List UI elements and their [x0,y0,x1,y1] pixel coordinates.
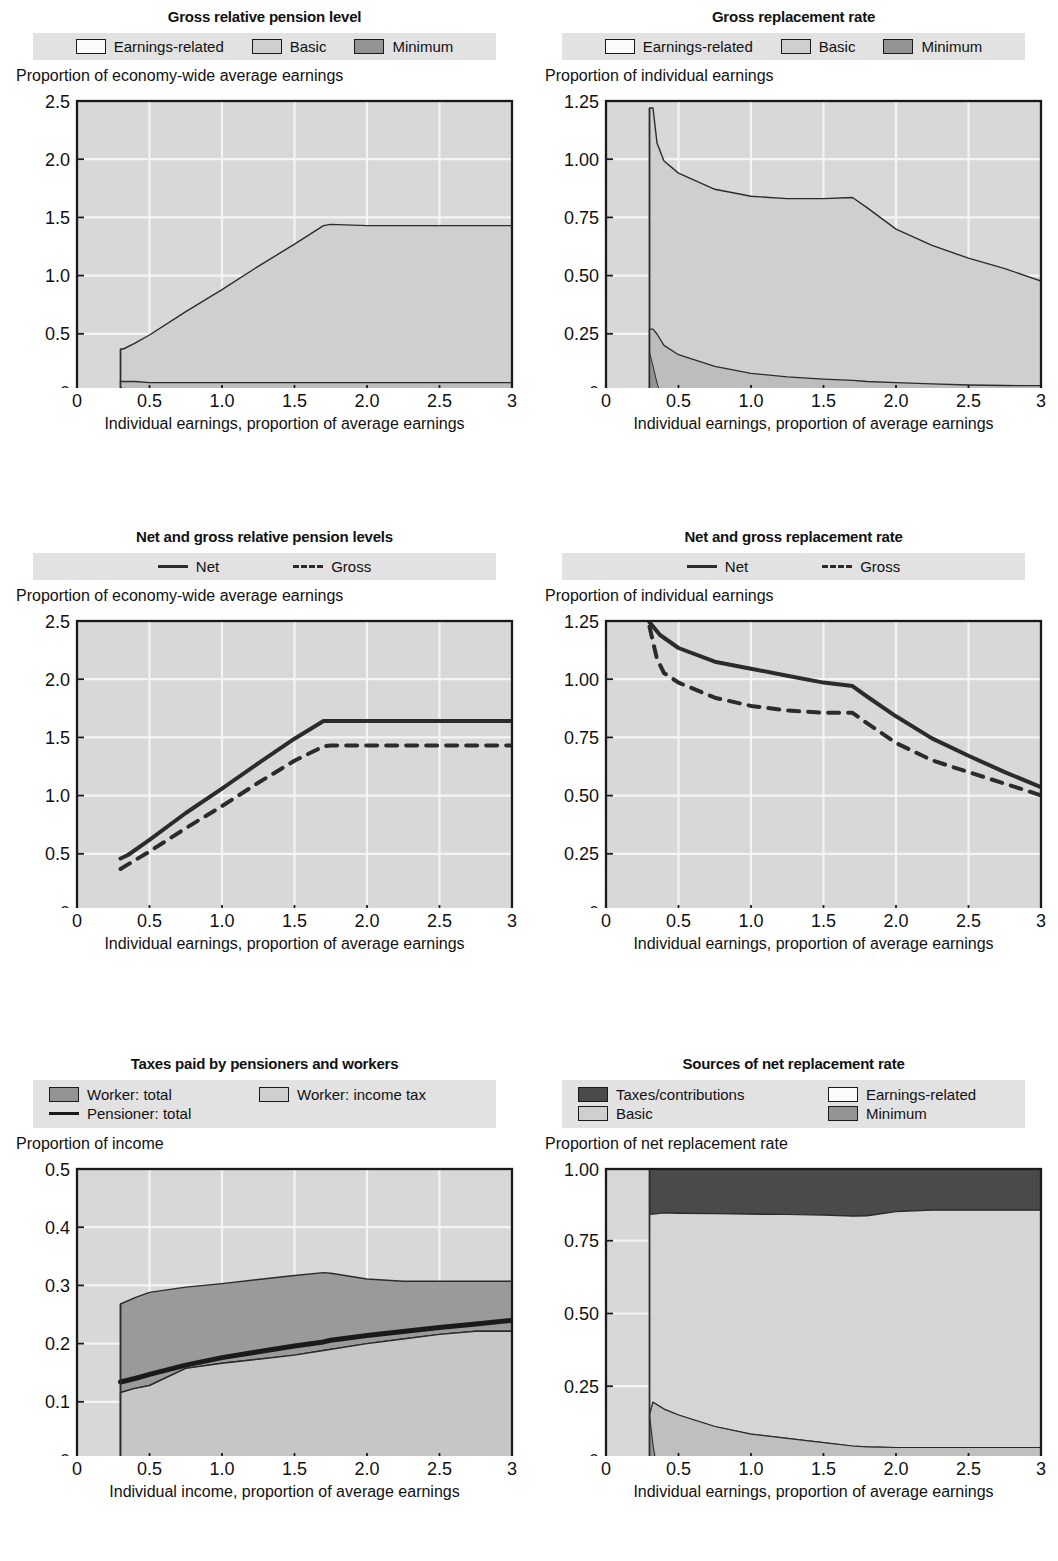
legend-label: Worker: total [87,1086,172,1103]
legend-item[interactable]: Taxes/contributions [578,1086,828,1103]
x-axis-ticks: 0 0.5 1.0 1.5 2.0 2.5 3 [72,1459,517,1479]
legend-item[interactable]: Minimum [354,38,453,55]
y-tick: 0.2 [45,1334,70,1354]
legend-swatch-basic-icon [781,39,811,54]
x-tick: 2.5 [956,911,981,931]
legend-swatch-worker-income-tax-icon [259,1087,289,1102]
legend-label: Pensioner: total [87,1105,191,1122]
page-title: Gross relative pension level [0,8,529,26]
x-axis-title: Individual earnings, proportion of avera… [529,935,1058,953]
legend-label: Minimum [921,38,982,55]
x-tick: 1.5 [811,391,836,411]
legend-item[interactable]: Basic [578,1105,828,1122]
y-tick: 1.0 [45,786,70,806]
x-tick: 0 [72,1459,82,1479]
y-tick: 1.5 [45,208,70,228]
x-axis-title: Individual earnings, proportion of avera… [529,415,1058,433]
x-tick: 0 [601,391,611,411]
y-axis-ticks: 1.25 1.00 0.75 0.50 0.25 0 [564,612,599,908]
y-tick: 1.5 [45,728,70,748]
legend-swatch-net-line-icon [158,565,188,568]
legend-label: Net [196,558,219,575]
chart-legend: Worker: total Worker: income tax Pension… [33,1080,496,1128]
legend-label: Basic [819,38,856,55]
legend-item[interactable]: Minimum [828,1105,927,1122]
y-tick: 0 [589,383,599,388]
legend-item[interactable]: Earnings-related [828,1086,976,1103]
x-tick: 0 [72,391,82,411]
x-tick: 2.0 [354,391,379,411]
x-tick: 0.5 [666,1459,691,1479]
legend-label: Minimum [866,1105,927,1122]
x-tick: 0.5 [666,391,691,411]
x-tick: 0 [601,1459,611,1479]
plot-area: 2.5 2.0 1.5 1.0 0.5 0 0 0.5 1.0 1.5 2.0 … [0,88,529,414]
legend-item[interactable]: Basic [781,38,856,55]
y-tick: 2.5 [45,612,70,632]
x-tick: 1.0 [209,391,234,411]
y-tick: 2.0 [45,670,70,690]
x-tick: 1.5 [282,391,307,411]
legend-item[interactable]: Earnings-related [76,38,224,55]
plot-area: 1.00 0.75 0.50 0.25 0 0 0.5 1.0 1.5 2.0 … [529,1156,1058,1482]
y-tick: 0.5 [45,844,70,864]
y-axis-ticks: 1.00 0.75 0.50 0.25 0 [564,1160,599,1456]
x-tick: 0 [72,911,82,931]
x-tick: 1.0 [209,1459,234,1479]
legend-item[interactable]: Worker: income tax [259,1086,426,1103]
x-tick: 2.0 [354,911,379,931]
legend-swatch-minimum-icon [883,39,913,54]
legend-item[interactable]: Gross [822,558,900,575]
y-tick: 1.00 [564,1160,599,1180]
x-axis-ticks: 0 0.5 1.0 1.5 2.0 2.5 3 [72,911,517,931]
legend-label: Taxes/contributions [616,1086,744,1103]
panel-taxes-paid-by-pensioners-and-workers: Taxes paid by pensioners and workers Wor… [0,1055,529,1501]
legend-label: Earnings-related [114,38,224,55]
legend-item[interactable]: Basic [252,38,327,55]
legend-label: Earnings-related [643,38,753,55]
x-tick: 1.0 [738,1459,763,1479]
legend-item[interactable]: Pensioner: total [49,1105,191,1122]
page-title: Sources of net replacement rate [529,1055,1058,1073]
y-axis-title: Proportion of individual earnings [545,66,1058,86]
x-tick: 1.5 [282,911,307,931]
x-tick: 2.5 [427,911,452,931]
legend-item[interactable]: Net [158,558,219,575]
x-axis-ticks: 0 0.5 1.0 1.5 2.0 2.5 3 [601,391,1046,411]
legend-item[interactable]: Gross [293,558,371,575]
legend-label: Basic [290,38,327,55]
legend-swatch-earnings-related-icon [828,1087,858,1102]
legend-swatch-basic-icon [252,39,282,54]
legend-swatch-gross-dash-icon [822,565,852,568]
y-tick: 0.50 [564,786,599,806]
page-title: Net and gross relative pension levels [0,528,529,546]
y-tick: 0.4 [45,1218,70,1238]
legend-swatch-gross-dash-icon [293,565,323,568]
plot-area: 1.25 1.00 0.75 0.50 0.25 0 0 0.5 1.0 1.5… [529,608,1058,934]
x-tick: 0 [601,911,611,931]
y-tick: 0.25 [564,1377,599,1397]
legend-item[interactable]: Minimum [883,38,982,55]
x-tick: 2.0 [883,1459,908,1479]
page-title: Gross replacement rate [529,8,1058,26]
area-earnings-related [650,1210,1042,1447]
legend-item[interactable]: Earnings-related [605,38,753,55]
x-axis-ticks: 0 0.5 1.0 1.5 2.0 2.5 3 [601,911,1046,931]
y-tick: 0.75 [564,728,599,748]
x-tick: 1.0 [738,391,763,411]
y-tick: 2.5 [45,92,70,112]
legend-swatch-taxes-contributions-icon [578,1087,608,1102]
legend-label: Net [725,558,748,575]
y-axis-title: Proportion of individual earnings [545,586,1058,606]
x-tick: 3 [507,391,517,411]
x-tick: 0.5 [666,911,691,931]
x-tick: 1.5 [282,1459,307,1479]
legend-swatch-minimum-icon [828,1106,858,1121]
y-axis-title: Proportion of income [16,1134,529,1154]
x-axis-title: Individual earnings, proportion of avera… [529,1483,1058,1501]
x-tick: 1.5 [811,1459,836,1479]
legend-item[interactable]: Net [687,558,748,575]
chart-legend: Earnings-related Basic Minimum [33,33,496,60]
x-tick: 3 [507,911,517,931]
legend-item[interactable]: Worker: total [49,1086,259,1103]
